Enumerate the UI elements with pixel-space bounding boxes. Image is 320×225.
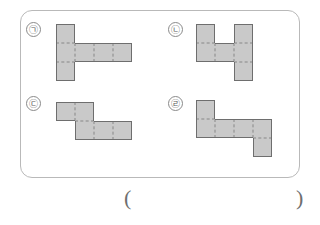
option-panel-b[interactable]: ㉡: [168, 20, 298, 96]
net-outer-edge: [94, 43, 113, 44]
net-cell: [215, 43, 234, 62]
net-outer-edge: [234, 119, 253, 120]
net-outer-edge: [113, 43, 132, 44]
net-cell: [234, 119, 253, 138]
net-outer-edge: [56, 102, 57, 121]
net-cell: [215, 119, 234, 138]
net-outer-edge: [56, 102, 75, 103]
net-outer-edge: [271, 119, 272, 138]
net-cell: [113, 43, 132, 62]
net-outer-edge: [196, 100, 197, 119]
net-outer-edge: [234, 24, 235, 43]
net-outer-edge: [215, 119, 234, 120]
answer-row: ( ): [0, 186, 320, 216]
net-outer-edge: [196, 119, 197, 138]
net-outer-edge: [196, 24, 197, 43]
net-outer-edge: [196, 24, 215, 25]
net-outer-edge: [196, 137, 215, 138]
net-cell: [196, 100, 215, 119]
net-outer-edge: [75, 139, 94, 140]
net-outer-edge: [214, 100, 215, 119]
net-outer-edge: [234, 137, 253, 138]
option-panel-c[interactable]: ㉢: [26, 94, 166, 172]
net-cell: [75, 43, 94, 62]
net-cell: [94, 43, 113, 62]
net-cell: [94, 121, 113, 140]
net-outer-edge: [113, 121, 132, 122]
net-outer-edge: [75, 61, 94, 62]
net-outer-edge: [252, 24, 253, 43]
net-outer-edge: [253, 119, 272, 120]
option-label-b: ㉡: [168, 22, 183, 37]
net-outer-edge: [234, 24, 253, 25]
net-outer-edge: [113, 139, 132, 140]
net-outer-edge: [252, 62, 253, 81]
net-cell: [234, 43, 253, 62]
net-outer-edge: [253, 156, 272, 157]
net-cell: [56, 62, 75, 81]
net-outer-edge: [75, 43, 94, 44]
net-outer-edge: [131, 121, 132, 140]
net-outer-edge: [56, 80, 75, 81]
net-cell: [75, 102, 94, 121]
answer-open-paren: (: [124, 186, 131, 210]
net-cell: [56, 102, 75, 121]
net-cell: [196, 43, 215, 62]
net-cell: [234, 24, 253, 43]
net-cell: [196, 24, 215, 43]
net-outer-edge: [196, 100, 215, 101]
net-outer-edge: [215, 137, 234, 138]
option-panel-a[interactable]: ㉠: [26, 20, 166, 96]
net-outer-edge: [56, 43, 57, 62]
net-outer-edge: [131, 43, 132, 62]
net-outer-edge: [234, 80, 253, 81]
net-outer-edge: [56, 24, 57, 43]
net-cell: [113, 121, 132, 140]
net-outer-edge: [93, 102, 94, 121]
net-outer-edge: [196, 43, 197, 62]
net-outer-edge: [75, 102, 94, 103]
net-outer-edge: [215, 61, 234, 62]
option-label-c: ㉢: [26, 96, 41, 111]
net-outer-edge: [214, 24, 215, 43]
net-outer-edge: [234, 62, 235, 81]
net-cell: [234, 62, 253, 81]
net-outer-edge: [94, 121, 113, 122]
net-outer-edge: [94, 61, 113, 62]
net-cell: [56, 43, 75, 62]
net-cell: [56, 24, 75, 43]
net-cell: [253, 138, 272, 157]
net-outer-edge: [271, 138, 272, 157]
net-outer-edge: [75, 121, 76, 140]
option-panel-d[interactable]: ㉣: [168, 94, 298, 172]
net-cell: [196, 119, 215, 138]
net-outer-edge: [56, 120, 75, 121]
net-cell: [75, 121, 94, 140]
net-outer-edge: [74, 24, 75, 43]
option-label-a: ㉠: [26, 22, 41, 37]
net-outer-edge: [56, 24, 75, 25]
net-outer-edge: [56, 62, 57, 81]
option-label-d: ㉣: [168, 96, 183, 111]
worksheet-page: ㉠ ㉡ ㉢ ㉣ ( ): [0, 0, 320, 225]
net-outer-edge: [74, 62, 75, 81]
net-outer-edge: [196, 61, 215, 62]
net-outer-edge: [252, 43, 253, 62]
answer-input-blank[interactable]: [136, 186, 292, 210]
net-outer-edge: [94, 139, 113, 140]
net-cell: [253, 119, 272, 138]
answer-close-paren: ): [296, 186, 303, 210]
net-outer-edge: [113, 61, 132, 62]
net-outer-edge: [253, 138, 254, 157]
net-outer-edge: [215, 43, 234, 44]
